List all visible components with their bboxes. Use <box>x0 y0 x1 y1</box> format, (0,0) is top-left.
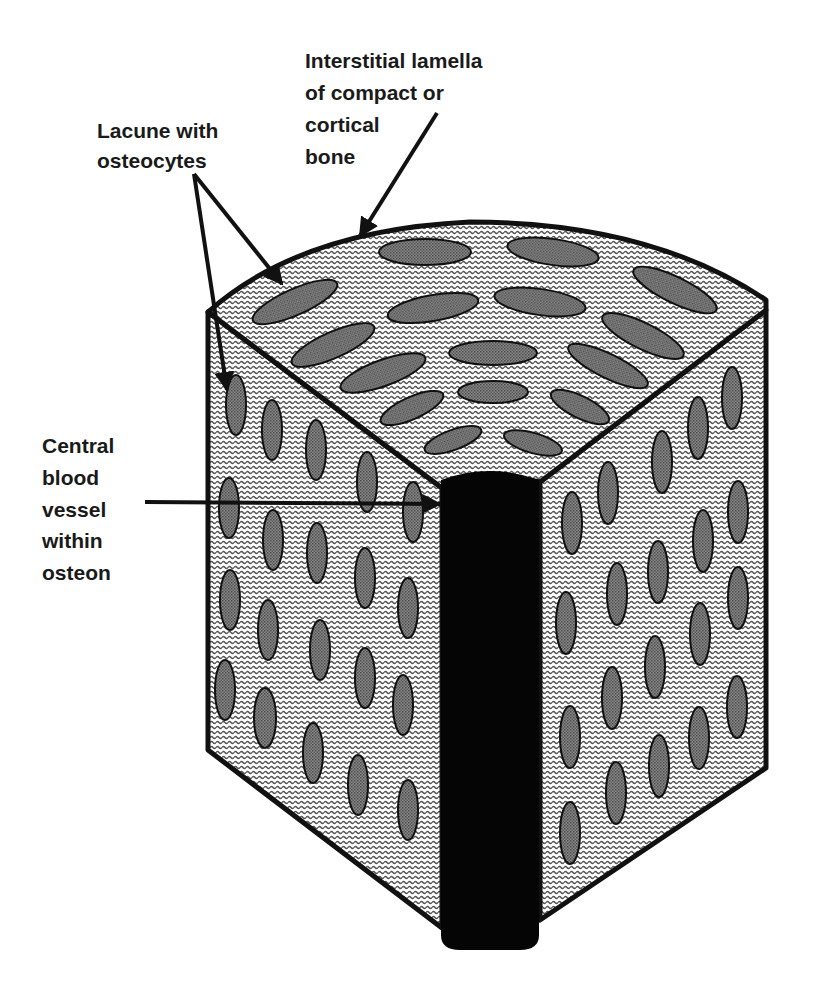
lacuna-osteocyte <box>728 567 748 629</box>
lacuna-osteocyte <box>310 620 330 680</box>
label-line: cortical <box>305 113 380 136</box>
lacuna-osteocyte <box>728 481 748 543</box>
lacuna-osteocyte <box>258 600 278 660</box>
lacuna-osteocyte <box>307 523 327 583</box>
lacuna-osteocyte <box>560 706 580 768</box>
label-line: Lacune with <box>97 119 218 142</box>
lacuna-osteocyte <box>348 755 368 815</box>
lacuna-osteocyte <box>215 660 235 720</box>
lacuna-osteocyte <box>645 636 665 698</box>
lacuna-osteocyte <box>263 510 283 570</box>
lacuna-osteocyte <box>306 420 326 480</box>
lacuna-osteocyte <box>393 675 413 735</box>
lacuna-osteocyte <box>648 541 668 603</box>
label-interstitial-lamella: Interstitial lamella of compact or corti… <box>305 49 488 168</box>
label-line: vessel <box>42 498 106 521</box>
lacuna-osteocyte <box>649 735 669 797</box>
lacuna-osteocyte <box>449 341 537 365</box>
lacuna-osteocyte <box>398 780 418 840</box>
label-line: osteocytes <box>97 149 207 172</box>
arrow-central-vessel <box>145 502 440 504</box>
label-lacune-osteocytes: Lacune with osteocytes <box>97 119 224 172</box>
lacuna-osteocyte <box>303 723 323 783</box>
lacuna-osteocyte <box>226 375 246 435</box>
lacuna-osteocyte <box>693 510 713 572</box>
lacuna-osteocyte <box>254 688 276 748</box>
lacuna-osteocyte <box>607 563 627 625</box>
lacuna-osteocyte <box>220 570 240 630</box>
label-line: within <box>41 529 103 552</box>
central-canal <box>441 471 539 950</box>
lacuna-osteocyte <box>606 762 626 824</box>
lacuna-osteocyte <box>722 367 742 429</box>
lacuna-osteocyte <box>598 462 618 524</box>
lacuna-osteocyte <box>403 482 423 542</box>
lacuna-osteocyte <box>379 239 471 265</box>
lacuna-osteocyte <box>262 400 282 460</box>
lacuna-osteocyte <box>556 592 576 654</box>
lacuna-osteocyte <box>355 648 375 708</box>
label-line: osteon <box>42 561 111 584</box>
lacuna-osteocyte <box>458 381 528 403</box>
label-line: bone <box>305 145 355 168</box>
label-line: Interstitial lamella <box>305 49 483 72</box>
lacuna-osteocyte <box>690 603 710 665</box>
label-line: blood <box>42 466 99 489</box>
lacuna-osteocyte <box>688 397 708 459</box>
label-central-blood-vessel: Central blood vessel within osteon <box>41 434 120 584</box>
lacuna-osteocyte <box>689 707 709 769</box>
label-line: of compact or <box>305 81 444 104</box>
lacuna-osteocyte <box>562 492 582 554</box>
lacuna-osteocyte <box>398 578 418 638</box>
lacuna-osteocyte <box>560 802 580 864</box>
lacuna-osteocyte <box>219 478 239 538</box>
lacuna-osteocyte <box>727 676 747 738</box>
osteon-diagram: Interstitial lamella of compact or corti… <box>0 0 813 990</box>
lacuna-osteocyte <box>355 548 375 608</box>
lacuna-osteocyte <box>652 431 672 493</box>
label-line: Central <box>42 434 114 457</box>
lacuna-osteocyte <box>602 667 622 729</box>
